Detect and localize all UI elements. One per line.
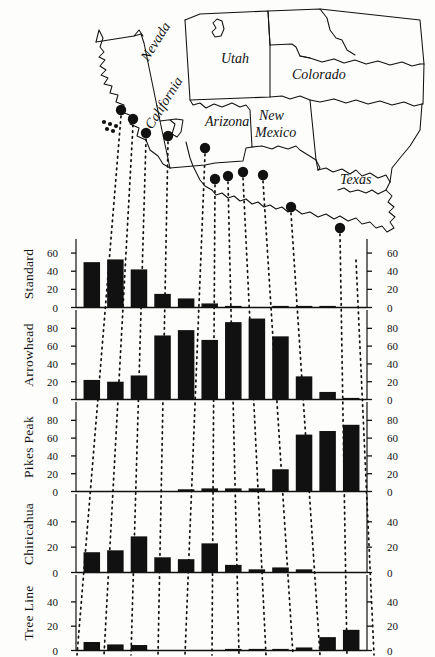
ytick-label-left: 20 xyxy=(47,468,58,480)
bars-svg xyxy=(58,238,385,309)
ytick-label-right: 80 xyxy=(387,414,398,426)
bar[interactable] xyxy=(225,306,242,308)
site-dot[interactable] xyxy=(163,131,173,141)
bar[interactable] xyxy=(296,306,313,308)
bar[interactable] xyxy=(272,306,289,308)
ytick-label-left: 20 xyxy=(47,376,58,388)
bar[interactable] xyxy=(343,398,360,400)
bar[interactable] xyxy=(154,557,171,572)
ytick-label-right: 60 xyxy=(387,340,398,352)
bar[interactable] xyxy=(201,303,218,307)
bar[interactable] xyxy=(131,536,148,572)
bar[interactable] xyxy=(84,380,101,400)
bar[interactable] xyxy=(178,330,195,399)
bar[interactable] xyxy=(84,552,101,572)
bar[interactable] xyxy=(249,319,266,400)
bar[interactable] xyxy=(84,642,101,651)
plot-area xyxy=(58,574,385,652)
bar[interactable] xyxy=(154,294,171,308)
ytick-label-right: 40 xyxy=(387,265,398,277)
site-dot[interactable] xyxy=(141,128,151,138)
y-axis-right: 02040 xyxy=(387,574,413,652)
bar[interactable] xyxy=(107,382,124,400)
bar[interactable] xyxy=(319,637,336,650)
ytick-label-left: 0 xyxy=(53,645,59,657)
bar[interactable] xyxy=(225,488,242,491)
site-dot[interactable] xyxy=(116,105,126,115)
y-axis-right: 02040 xyxy=(387,493,413,574)
y-axis-left: 020406080 xyxy=(32,309,58,401)
ytick-label-right: 20 xyxy=(387,376,398,388)
bar[interactable] xyxy=(272,649,289,651)
bar[interactable] xyxy=(272,336,289,399)
site-dot[interactable] xyxy=(238,167,248,177)
bar[interactable] xyxy=(107,259,124,307)
bar[interactable] xyxy=(272,567,289,572)
bar[interactable] xyxy=(201,543,218,572)
ytick-label-left: 80 xyxy=(47,414,58,426)
ytick-label-left: 20 xyxy=(47,541,58,553)
ytick-label-left: 40 xyxy=(47,265,58,277)
bar[interactable] xyxy=(84,262,101,307)
bar[interactable] xyxy=(225,565,242,573)
bar[interactable] xyxy=(296,647,313,650)
bar[interactable] xyxy=(319,392,336,400)
bars-svg xyxy=(58,574,385,652)
ytick-label-left: 20 xyxy=(47,620,58,632)
ytick-label-right: 0 xyxy=(387,645,393,657)
y-axis-right: 020406080 xyxy=(387,309,413,401)
plot-area xyxy=(58,238,385,309)
ytick-label-left: 20 xyxy=(47,283,58,295)
bar[interactable] xyxy=(296,435,313,492)
site-dot[interactable] xyxy=(223,171,233,181)
bar[interactable] xyxy=(178,489,195,491)
bar[interactable] xyxy=(319,306,336,308)
ytick-label-right: 20 xyxy=(387,283,398,295)
bar[interactable] xyxy=(131,269,148,307)
ytick-label-right: 40 xyxy=(387,450,398,462)
site-dot[interactable] xyxy=(128,114,138,124)
ytick-label-right: 80 xyxy=(387,322,398,334)
y-axis-left: 02040 xyxy=(32,574,58,652)
bar[interactable] xyxy=(249,569,266,572)
ytick-label-left: 60 xyxy=(47,432,58,444)
site-dot[interactable] xyxy=(286,202,296,212)
site-dot[interactable] xyxy=(200,143,210,153)
bar[interactable] xyxy=(131,645,148,650)
bar[interactable] xyxy=(178,559,195,572)
site-dot-small xyxy=(102,120,106,124)
bar[interactable] xyxy=(107,550,124,572)
bar[interactable] xyxy=(107,644,124,650)
ytick-label-right: 40 xyxy=(387,596,398,608)
bar[interactable] xyxy=(178,298,195,307)
bar[interactable] xyxy=(154,335,171,399)
bar[interactable] xyxy=(343,630,360,651)
ytick-label-right: 20 xyxy=(387,541,398,553)
bars-svg xyxy=(58,309,385,401)
bar[interactable] xyxy=(201,340,218,400)
site-dot-small xyxy=(105,127,109,131)
panel-standard: Standard02040600204060 xyxy=(0,238,435,309)
bar[interactable] xyxy=(319,431,336,491)
bar[interactable] xyxy=(296,569,313,572)
figure-root: Nevada California Utah Colorado Arizona … xyxy=(0,0,435,657)
bar[interactable] xyxy=(201,488,218,491)
bar[interactable] xyxy=(249,649,266,651)
bar[interactable] xyxy=(131,375,148,399)
site-dot-small xyxy=(114,124,118,128)
ytick-label-right: 20 xyxy=(387,468,398,480)
bar[interactable] xyxy=(249,488,266,491)
panel-arrowhead: Arrowhead020406080020406080 xyxy=(0,309,435,401)
bar-panels: Standard02040600204060Arrowhead020406080… xyxy=(0,238,435,657)
bar[interactable] xyxy=(272,469,289,491)
bar[interactable] xyxy=(225,649,242,651)
y-axis-left: 0204060 xyxy=(32,238,58,309)
site-dot-small xyxy=(108,122,112,126)
bar[interactable] xyxy=(225,322,242,399)
site-dot[interactable] xyxy=(210,174,220,184)
bar[interactable] xyxy=(343,425,360,492)
bar[interactable] xyxy=(296,376,313,399)
panel-tree-line: Tree Line0204002040 xyxy=(0,574,435,652)
site-dot[interactable] xyxy=(258,170,268,180)
site-dot[interactable] xyxy=(335,223,345,233)
